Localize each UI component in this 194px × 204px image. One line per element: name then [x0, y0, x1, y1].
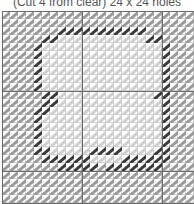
pattern-caption: (Cut 4 from clear) 24 x 24 holes [0, 0, 194, 9]
grid-heavy-line [82, 11, 83, 203]
background-stitch [186, 195, 194, 203]
grid-heavy-line [2, 171, 194, 172]
grid-heavy-line [162, 11, 163, 203]
stitch-grid [2, 11, 194, 203]
grid-heavy-line [2, 91, 194, 92]
